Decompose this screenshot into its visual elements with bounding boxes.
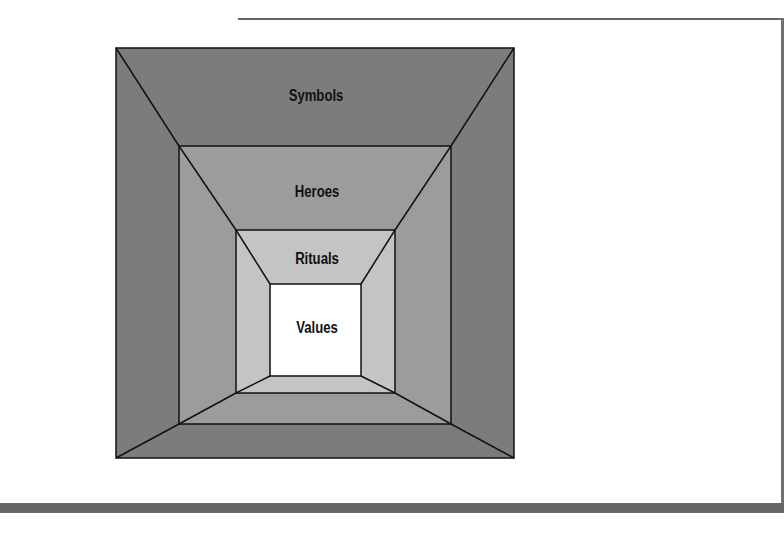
diagram-page: Symbols Heroes Rituals Values: [0, 0, 784, 534]
layer-label-heroes: Heroes: [295, 183, 339, 201]
layer-label-symbols: Symbols: [289, 87, 344, 105]
layer-label-values: Values: [296, 319, 338, 337]
onion-diagram: [0, 0, 784, 534]
layer-label-rituals: Rituals: [295, 250, 339, 268]
